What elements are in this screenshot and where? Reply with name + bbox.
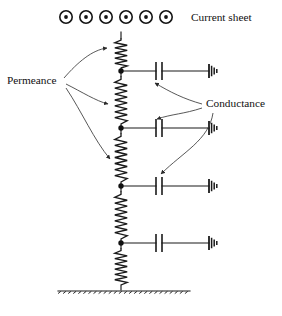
permeance-resistor-1 [115, 38, 127, 68]
conductance-branch-2 [121, 119, 217, 137]
conductance-branch-1 [121, 62, 217, 80]
circuit-diagram-canvas: Current sheet Permeance Conductance [0, 0, 282, 316]
current-sheet-symbol [160, 11, 172, 23]
permeance-arrow-2 [66, 84, 108, 104]
current-sheet-symbol [60, 11, 72, 23]
node-4 [118, 240, 123, 245]
ground-plane-hatch [58, 291, 188, 293]
permeance-resistor-3 [115, 133, 127, 182]
conductance-branch-3 [121, 177, 217, 195]
conductance-arrow-3 [161, 113, 213, 174]
label-conductance: Conductance [206, 97, 265, 109]
permeance-arrow-1 [64, 48, 107, 78]
current-dot [84, 15, 88, 19]
current-sheet-symbol [80, 11, 92, 23]
circuit-diagram: Current sheet Permeance Conductance [0, 0, 282, 316]
annotation-leader-arrows [64, 48, 213, 174]
current-sheet-symbol [100, 11, 112, 23]
permeance-resistor-4 [115, 191, 127, 239]
current-dot [144, 15, 148, 19]
current-sheet-symbols [60, 11, 172, 23]
node-2 [118, 125, 123, 130]
current-dot [64, 15, 68, 19]
conductance-arrow-1 [155, 83, 202, 104]
current-sheet-symbol [140, 11, 152, 23]
permeance-resistor-5 [115, 248, 127, 285]
permeance-resistor-2 [115, 76, 127, 124]
label-current-sheet: Current sheet [191, 11, 252, 23]
current-dot [164, 15, 168, 19]
current-sheet-symbol [120, 11, 132, 23]
label-permeance: Permeance [7, 74, 57, 86]
ground-plane [58, 291, 190, 294]
current-dot [104, 15, 108, 19]
current-dot [124, 15, 128, 19]
conductance-branch-4 [121, 234, 217, 252]
node-3 [118, 183, 123, 188]
node-1 [118, 68, 123, 73]
conductance-arrow-2 [157, 108, 202, 119]
permeance-arrow-3 [66, 88, 110, 159]
